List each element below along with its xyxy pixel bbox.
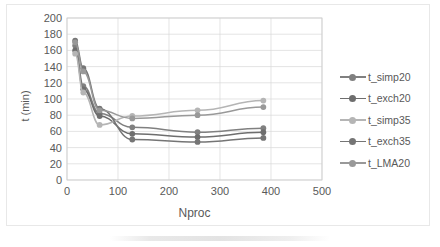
legend-item-t_LMA20[interactable]: t_LMA20 — [340, 152, 436, 174]
legend-item-t_exch35[interactable]: t_exch35 — [340, 131, 436, 153]
legend-label: t_LMA20 — [366, 157, 410, 169]
legend-marker-icon — [340, 115, 366, 125]
legend-marker-icon — [340, 72, 366, 82]
chart-legend: t_simp20t_exch20t_simp35t_exch35t_LMA20 — [340, 66, 436, 174]
legend-marker-icon — [340, 158, 366, 168]
data-point-marker — [260, 135, 266, 141]
data-point-marker — [129, 116, 135, 122]
data-point-marker — [72, 51, 78, 57]
legend-dot-icon — [349, 117, 356, 124]
data-point-marker — [260, 98, 266, 104]
line-chart: t (min) 020406080100120140160180200 0100… — [0, 0, 440, 247]
data-point-marker — [195, 139, 201, 145]
data-point-marker — [97, 107, 103, 113]
data-point-marker — [80, 69, 86, 75]
legend-dot-icon — [349, 138, 356, 145]
legend-label: t_simp20 — [366, 71, 411, 83]
page-edge-artifact — [110, 236, 330, 241]
legend-label: t_exch35 — [366, 135, 411, 147]
legend-dot-icon — [349, 160, 356, 167]
data-point-marker — [129, 124, 135, 130]
data-point-marker — [260, 104, 266, 110]
legend-item-t_exch20[interactable]: t_exch20 — [340, 88, 436, 110]
data-point-marker — [260, 129, 266, 135]
data-point-marker — [129, 137, 135, 143]
data-point-marker — [129, 131, 135, 137]
data-point-marker — [195, 112, 201, 118]
legend-dot-icon — [349, 74, 356, 81]
legend-label: t_exch20 — [366, 92, 411, 104]
data-point-marker — [80, 90, 86, 96]
legend-marker-icon — [340, 136, 366, 146]
data-point-marker — [97, 113, 103, 119]
legend-label: t_simp35 — [366, 114, 411, 126]
data-point-marker — [72, 39, 78, 45]
legend-item-t_simp20[interactable]: t_simp20 — [340, 66, 436, 88]
data-point-marker — [97, 122, 103, 128]
legend-item-t_simp35[interactable]: t_simp35 — [340, 109, 436, 131]
legend-dot-icon — [349, 95, 356, 102]
legend-marker-icon — [340, 93, 366, 103]
